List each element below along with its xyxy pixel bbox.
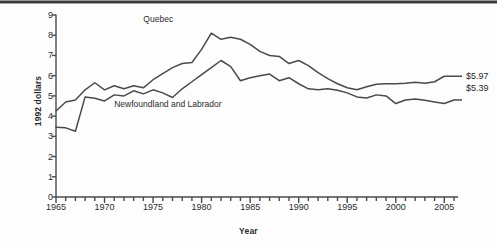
series-line-1	[56, 61, 454, 132]
data-lines-group	[56, 33, 462, 131]
plot-area	[0, 0, 497, 248]
axes-group	[52, 15, 458, 204]
chart-figure: 1992 dollars Year 0123456789 19651970197…	[0, 0, 497, 248]
series-line-0	[56, 33, 454, 111]
